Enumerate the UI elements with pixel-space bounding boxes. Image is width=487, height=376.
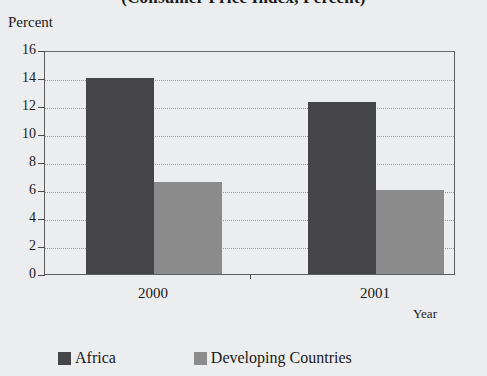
y-axis-tick-label: 6 (2, 183, 36, 197)
y-axis-tick-label: 2 (2, 239, 36, 253)
y-axis-tick-label: 8 (2, 155, 36, 169)
y-axis-tick (38, 135, 45, 136)
legend-item-developing-countries: Developing Countries (194, 349, 352, 367)
bar-developing-countries-2001 (376, 190, 444, 274)
y-axis-tick-label: 10 (2, 127, 36, 141)
legend-swatch-icon (194, 352, 207, 365)
y-axis-tick-label: 0 (2, 267, 36, 281)
x-axis-tick (250, 275, 251, 279)
y-axis-tick (38, 275, 45, 276)
legend-item-africa: Africa (58, 349, 116, 367)
y-axis-tick-label: 4 (2, 211, 36, 225)
y-axis-tick (38, 219, 45, 220)
bar-africa-2000 (86, 78, 154, 274)
plot-area (44, 51, 455, 275)
x-axis-category-label: 2000 (93, 285, 213, 302)
legend-label: Africa (75, 349, 116, 367)
legend-swatch-icon (58, 352, 71, 365)
y-axis-tick (38, 163, 45, 164)
y-axis-tick (38, 79, 45, 80)
y-axis-tick-label: 14 (2, 71, 36, 85)
x-axis-category-label: 2001 (315, 285, 435, 302)
chart-title: (Consumer Price Index, Percent) (0, 0, 487, 8)
y-axis-tick (38, 191, 45, 192)
legend-label: Developing Countries (211, 349, 352, 367)
x-axis-title: Year (413, 306, 437, 322)
chart-legend: Africa Developing Countries (58, 349, 352, 367)
y-axis-tick-label: 16 (2, 43, 36, 57)
y-axis-labels: 1614121086420 (0, 0, 36, 376)
bar-africa-2001 (308, 102, 376, 274)
y-axis-tick (38, 107, 45, 108)
y-axis-tick (38, 247, 45, 248)
y-axis-tick (38, 51, 45, 52)
bar-developing-countries-2000 (154, 182, 222, 274)
y-axis-tick-label: 12 (2, 99, 36, 113)
